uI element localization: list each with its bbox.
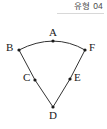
arc-b-a-f [19,41,85,50]
vertex-label-b: B [6,42,13,53]
vertex-dot-e [68,77,71,80]
page-root: 유형 04 ABFCED [0,0,107,129]
vertex-label-c: C [23,72,30,83]
vertex-dot-a [51,39,54,42]
page-type-label: 유형 04 [74,1,103,11]
vertex-label-e: E [74,72,81,83]
vertex-label-d: D [49,110,57,121]
vertex-dot-f [83,48,86,51]
vertex-label-a: A [49,27,57,38]
vertex-label-f: F [89,42,95,53]
vertex-dot-c [33,78,36,81]
geometry-figure: ABFCED [0,14,107,129]
vertex-dot-b [17,48,20,51]
